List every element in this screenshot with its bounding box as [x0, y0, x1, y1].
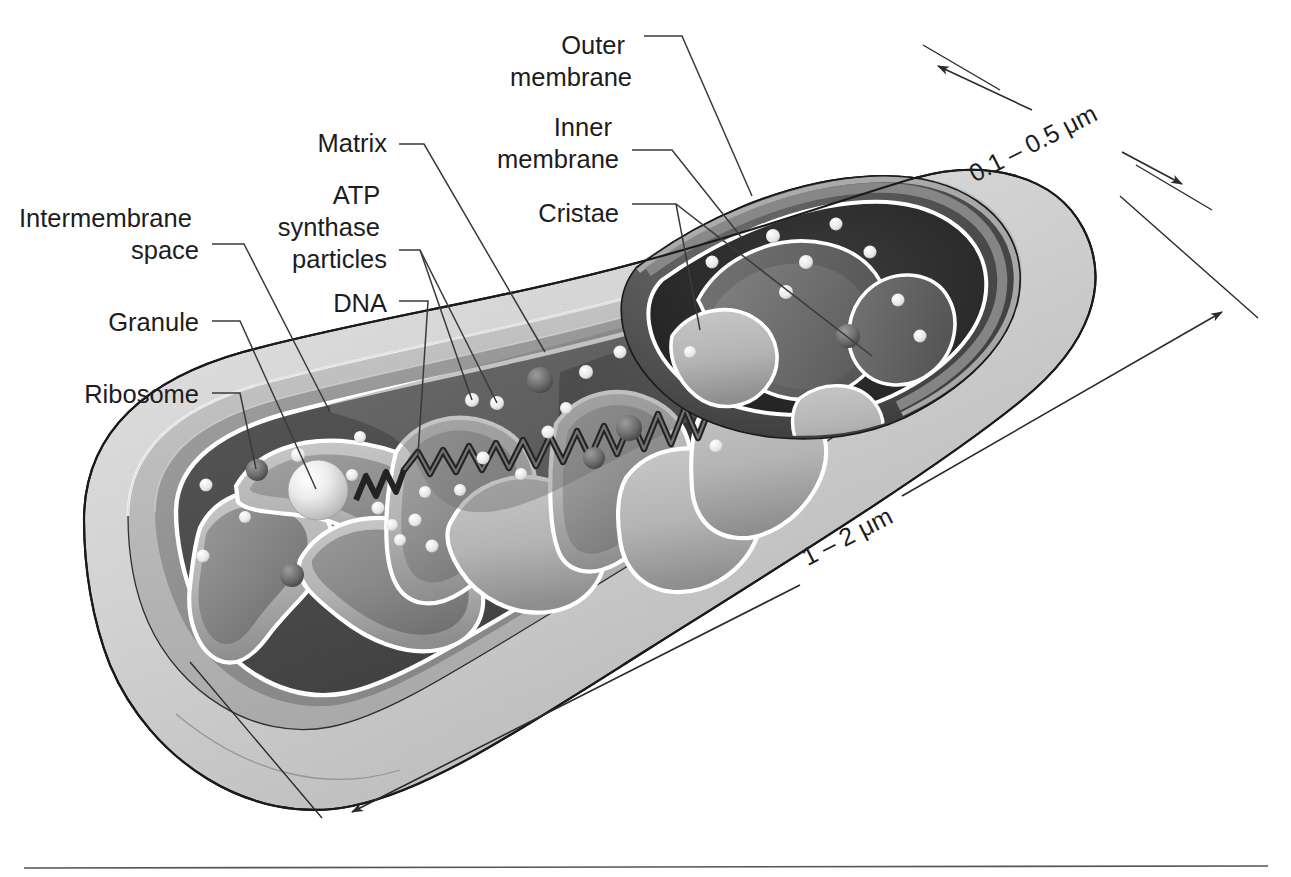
atp-synthase-particle	[892, 294, 905, 307]
granule-left	[288, 460, 348, 520]
length-extension-line-2	[1120, 196, 1258, 318]
atp-synthase-particle	[454, 484, 466, 496]
atp-synthase-particle	[779, 285, 793, 299]
atp-synthase-particle	[477, 452, 490, 465]
ribosome	[280, 563, 304, 587]
mitochondrion-diagram: Outer membrane Inner membrane Cristae Ma…	[0, 0, 1291, 877]
thickness-extension-line-1	[923, 45, 1000, 90]
atp-synthase-particle	[710, 440, 723, 453]
ribosome	[583, 447, 605, 469]
atp-synthase-particle	[372, 502, 385, 515]
atp-synthase-particle	[830, 218, 843, 231]
atp-synthase-particle	[515, 468, 527, 480]
atp-synthase-particle	[579, 365, 593, 379]
label-dna: DNA	[333, 289, 387, 317]
label-atp-synthase-particles: ATP synthase particles	[278, 181, 387, 273]
atp-synthase-particle	[426, 540, 439, 553]
label-granule: Granule	[108, 308, 199, 336]
atp-synthase-particle	[409, 514, 422, 527]
atp-synthase-particle	[200, 479, 213, 492]
bottom-rule	[24, 866, 1268, 868]
ribosome	[616, 415, 642, 441]
atp-synthase-particle	[419, 486, 431, 498]
label-outer-membrane: Outer membrane	[510, 31, 632, 91]
atp-synthase-particle	[864, 246, 877, 259]
atp-synthase-particle	[346, 469, 358, 481]
ribosome	[246, 459, 268, 481]
atp-synthase-particle	[386, 519, 398, 531]
atp-synthase-particle	[239, 511, 251, 523]
ribosome	[527, 367, 553, 393]
atp-synthase-particle	[684, 346, 696, 358]
label-intermembrane-space: Intermembrane space	[19, 204, 199, 264]
figure-canvas: Outer membrane Inner membrane Cristae Ma…	[0, 0, 1291, 877]
thickness-dimension-line-right	[1122, 152, 1182, 184]
thickness-dimension-label: 0.1 – 0.5 μm	[964, 99, 1101, 187]
label-matrix: Matrix	[318, 129, 388, 157]
atp-synthase-particle	[354, 431, 366, 443]
thickness-extension-line-2	[1136, 165, 1212, 210]
label-ribosome: Ribosome	[84, 380, 199, 408]
label-inner-membrane: Inner membrane	[497, 113, 619, 173]
label-cristae: Cristae	[538, 199, 619, 227]
atp-synthase-particle	[706, 256, 719, 269]
atp-synthase-particle	[542, 426, 555, 439]
thickness-dimension-line-left	[938, 66, 1032, 110]
atp-synthase-particle	[560, 402, 572, 414]
atp-synthase-particle	[614, 346, 627, 359]
atp-synthase-particle	[197, 550, 210, 563]
atp-synthase-particle	[766, 229, 780, 243]
atp-synthase-particle	[394, 534, 406, 546]
atp-synthase-particle	[799, 255, 813, 269]
mitochondrion-illustration	[84, 170, 1095, 810]
atp-synthase-particle	[914, 330, 927, 343]
leader-outer-membrane	[644, 36, 752, 196]
